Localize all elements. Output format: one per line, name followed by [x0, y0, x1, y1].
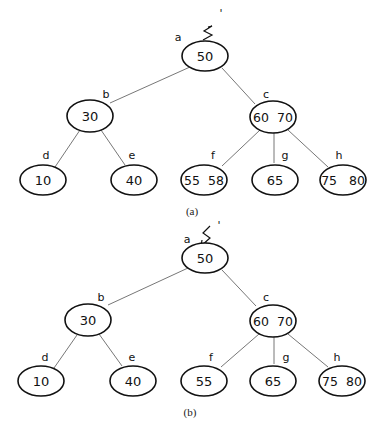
node-label: g [282, 149, 289, 162]
node-label: b [103, 88, 110, 101]
edge-b-d [54, 335, 77, 368]
node-b: b 30 [67, 88, 113, 132]
node-e: e 40 [110, 351, 156, 396]
node-label: c [263, 88, 269, 101]
node-label: a [184, 233, 191, 246]
node-keys: 65 [267, 173, 284, 188]
node-label: b [98, 291, 105, 304]
caption-b: (b) [184, 406, 197, 419]
node-d: d 10 [20, 149, 66, 195]
panel-b: ' a 50 b 30 c 60 70 d 10 e 40 f [18, 219, 365, 419]
node-a: a 50 [175, 31, 228, 71]
node-keys: 40 [125, 374, 142, 389]
node-keys: 75 80 [322, 374, 362, 389]
node-label: c [263, 291, 269, 304]
node-e: e 40 [111, 149, 157, 195]
node-label: e [129, 351, 136, 364]
node-label: a [175, 31, 182, 44]
node-keys: 60 70 [253, 110, 293, 125]
node-label: h [336, 149, 343, 162]
node-keys: 10 [35, 173, 52, 188]
edge-b-e [101, 130, 125, 165]
node-b: b 30 [65, 291, 111, 336]
node-label: d [42, 351, 49, 364]
node-keys: 50 [197, 251, 214, 266]
node-keys: 10 [33, 374, 50, 389]
edge-a-c [222, 270, 256, 306]
node-d: d 10 [18, 351, 64, 396]
node-keys: 30 [82, 109, 99, 124]
node-keys: 55 58 [184, 173, 224, 188]
node-label: g [283, 351, 290, 364]
edge-c-f [221, 334, 259, 367]
node-keys: 40 [126, 173, 143, 188]
pointer-label: ' [219, 7, 222, 20]
root-pointer-s-prime: ' [203, 7, 223, 40]
node-keys: 65 [265, 374, 282, 389]
node-label: d [43, 149, 50, 162]
caption-a: (a) [186, 205, 199, 218]
node-keys: 60 70 [253, 314, 293, 329]
node-label: h [334, 351, 341, 364]
node-label: e [129, 149, 136, 162]
node-h: h 75 80 [320, 149, 366, 195]
node-keys: 75 80 [321, 173, 365, 188]
node-label: f [211, 149, 216, 162]
node-a: a 50 [182, 233, 228, 273]
node-f: f 55 [181, 351, 227, 396]
node-c: c 60 70 [250, 291, 296, 337]
pointer-label: ' [217, 219, 220, 232]
edge-b-e [99, 334, 122, 366]
node-label: f [209, 351, 214, 364]
edge-a-c [222, 68, 255, 104]
node-keys: 55 [196, 374, 213, 389]
two-three-tree-figure: ' a 50 b 30 c 60 70 d 10 e 40 [0, 0, 384, 434]
edge-b-d [55, 130, 80, 167]
node-g: g 65 [250, 351, 296, 396]
edge-c-f [222, 130, 260, 166]
edge-a-b [110, 67, 190, 103]
root-pointer-s-prime: ' [201, 219, 221, 246]
node-keys: 50 [197, 49, 214, 64]
node-h: h 75 80 [319, 351, 365, 396]
node-g: g 65 [252, 149, 298, 195]
node-c: c 60 70 [250, 88, 296, 133]
edge-a-b [108, 268, 188, 305]
panel-a: ' a 50 b 30 c 60 70 d 10 e 40 [20, 7, 366, 218]
edge-c-h [288, 130, 328, 167]
node-f: f 55 58 [181, 149, 227, 195]
node-keys: 30 [80, 313, 97, 328]
edge-c-h [288, 334, 328, 367]
pointer-squiggle-icon [203, 26, 212, 40]
